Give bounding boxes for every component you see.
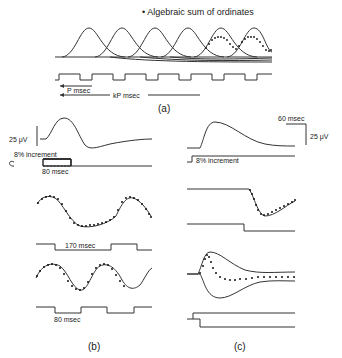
stimulus-step-down-c — [193, 319, 295, 327]
loop-arrow — [10, 161, 15, 166]
response-trace-2 — [36, 264, 152, 290]
stimulus-trace — [43, 159, 152, 166]
data-points-4 — [199, 254, 295, 281]
caption-c: (c) — [234, 341, 246, 352]
p-label: P msec — [67, 87, 91, 94]
caption-b: (b) — [88, 341, 100, 352]
duration-label-170: 170 msec — [65, 242, 96, 249]
panel-b: 25 μV 8% increment 80 msec 170 msec — [9, 118, 152, 352]
response-lower — [187, 274, 295, 298]
panel-c: 60 msec 25 μV 8% increment (c) — [187, 115, 329, 352]
increment-label-c: 8% increment — [196, 157, 239, 164]
response-trace-1 — [37, 196, 151, 226]
voltage-scale-label: 25 μV — [9, 136, 28, 144]
voltage-scale-label-c: 25 μV — [310, 133, 329, 141]
figure-canvas: • Algebraic sum of ordinates — [0, 0, 342, 358]
stimulus-step-down — [187, 224, 295, 231]
data-points-1 — [37, 195, 152, 227]
time-scale-label: 60 msec — [278, 115, 305, 122]
kp-label: kP msec — [113, 92, 140, 99]
pulse-train — [55, 74, 272, 80]
stimulus-trace-80 — [36, 307, 152, 313]
response-upper — [187, 252, 295, 274]
caption-a: (a) — [158, 103, 170, 114]
duration-label-80b: 80 msec — [54, 316, 81, 323]
response-step-down — [187, 189, 295, 216]
data-points-3 — [249, 189, 296, 216]
evoked-response — [40, 118, 152, 148]
legend-text: • Algebraic sum of ordinates — [142, 7, 254, 17]
evoked-response-c — [187, 122, 295, 148]
scale-bar — [286, 124, 306, 145]
increment-dashed — [43, 159, 71, 166]
increment-label: 8% increment — [14, 151, 57, 158]
algebraic-sum-dots — [205, 36, 272, 52]
stimulus-step-up-c — [187, 313, 295, 319]
duration-label-80: 80 msec — [42, 168, 69, 175]
panel-a: • Algebraic sum of ordinates — [55, 7, 272, 114]
